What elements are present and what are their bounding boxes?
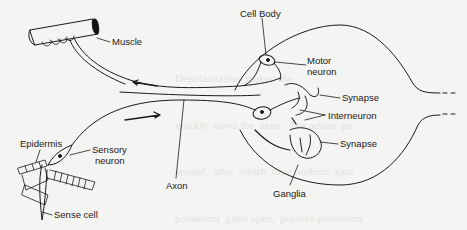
label-interneuron: Interneuron (328, 110, 377, 121)
epidermis-leader (36, 150, 40, 162)
ganglia-outline-bottom (240, 115, 440, 185)
epidermis (18, 160, 95, 205)
label-cell-body: Cell Body (240, 8, 281, 19)
label-synapse-bottom: Synapse (340, 138, 377, 149)
sensory-neuron-leader (70, 150, 90, 155)
motor-axon (74, 38, 280, 88)
motor-direction-arrow (133, 80, 157, 86)
label-synapse-top: Synapse (342, 92, 379, 103)
muscle-leader (97, 38, 110, 42)
label-motor-neuron-line2: neuron (307, 66, 337, 77)
synapse-bottom-leader (320, 142, 338, 144)
label-epidermis: Epidermis (20, 138, 62, 149)
synapse-bottom (290, 128, 321, 159)
label-sensory-neuron-line2: neuron (95, 155, 125, 166)
label-sense-cell: Sense cell (54, 209, 98, 220)
synapse-top-leader (320, 95, 340, 98)
label-motor-neuron-line1: Motor (307, 55, 331, 66)
label-muscle: Muscle (112, 36, 142, 47)
motor-neuron-leader (275, 62, 306, 65)
axon-leader (176, 100, 184, 178)
reflex-arc-diagram (0, 0, 467, 230)
ganglia-leader (290, 165, 298, 185)
cell-body-leader (262, 18, 266, 55)
label-sensory-neuron-line1: Sensory (92, 144, 127, 155)
sensory-direction-arrow (125, 112, 160, 120)
nerve-trunk-bottom (72, 100, 255, 145)
muscle (29, 19, 100, 46)
label-ganglia: Ganglia (273, 188, 306, 199)
nerve-trunk-top (120, 92, 260, 96)
label-axon: Axon (166, 180, 188, 191)
